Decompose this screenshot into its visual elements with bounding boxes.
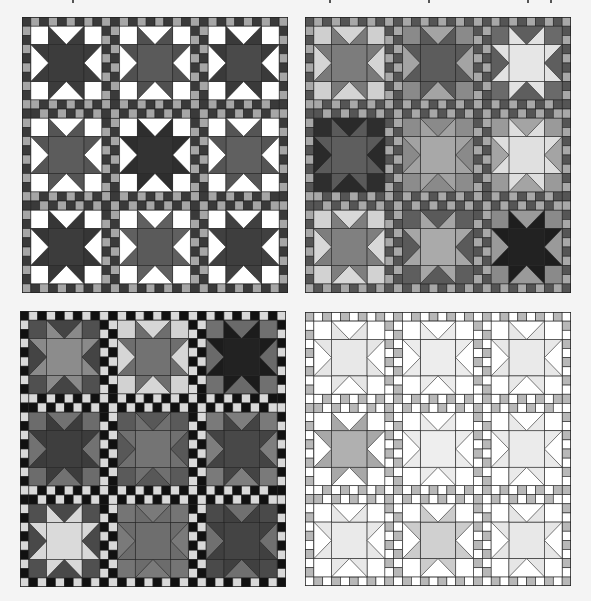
sashing-square [500,284,509,293]
sashing-square [562,91,571,100]
sashing-square [109,320,118,329]
sashing-square [217,100,226,109]
text-fragment [329,0,331,3]
sashing-square [55,394,64,403]
sashing-square [473,577,482,586]
sashing-square [190,173,199,182]
sashing-square [349,394,358,403]
block-corner [173,173,191,191]
sashing-square [197,477,206,486]
sashing-square [109,477,118,486]
sashing-square [49,201,58,210]
sashing-square [473,339,482,348]
sashing-square [456,284,465,293]
sashing-square [135,403,144,412]
block-corner [491,26,509,44]
sashing-square [73,394,82,403]
sashing-square [509,495,518,504]
sashing-square [473,458,482,467]
sashing-square [190,229,199,238]
sashing-square [120,192,129,201]
sashing-square [385,568,394,577]
sashing-square [376,284,385,293]
sashing-square [553,486,562,495]
sashing-square [22,238,31,247]
sashing-square [518,201,527,210]
sashing-square [536,312,545,321]
sashing-square [323,284,332,293]
sashing-square [199,229,208,238]
sashing-square [367,403,376,412]
sashing-square [100,329,109,338]
block-corner [120,118,138,136]
block-corner [208,81,226,99]
sashing-square [111,17,120,26]
sashing-square [323,394,332,403]
sashing-square [394,449,403,458]
sashing-square [279,201,288,210]
sashing-square [473,531,482,540]
sashing-square [305,367,314,376]
sashing-square [473,549,482,558]
sashing-square [323,100,332,109]
sashing-square [235,17,244,26]
sashing-square [199,210,208,219]
sashing-square [394,376,403,385]
sashing-square [491,284,500,293]
sashing-square [190,265,199,274]
sashing-square [93,201,102,210]
sashing-square [188,329,197,338]
block-corner [118,504,136,522]
sashing-square [305,265,314,274]
sashing-square [394,422,403,431]
sashing-square [562,81,571,90]
block-corner [84,173,102,191]
block-corner [31,118,49,136]
sashing-square [385,192,394,201]
sashing-square [518,192,527,201]
sashing-square [20,495,29,504]
sashing-square [188,412,197,421]
block-corner [120,265,138,283]
sashing-square [323,495,332,504]
block-corner [491,376,509,394]
sashing-square [482,440,491,449]
sashing-square [75,201,84,210]
sashing-square [562,339,571,348]
sashing-square [40,109,49,118]
sashing-square [482,358,491,367]
sashing-square [527,284,536,293]
sashing-square [146,100,155,109]
sashing-square [394,229,403,238]
sashing-square [394,54,403,63]
sashing-square [438,486,447,495]
sashing-square [102,155,111,164]
sashing-square [20,458,29,467]
block-corner [261,118,279,136]
sashing-square [197,394,206,403]
sashing-square [562,219,571,228]
sashing-square [403,100,412,109]
sashing-square [518,577,527,586]
sashing-square [473,275,482,284]
sashing-square [197,559,206,568]
block-corner [206,320,224,338]
sashing-square [305,339,314,348]
sashing-square [420,201,429,210]
sashing-square [164,100,173,109]
block-corner [491,412,509,430]
sashing-square [188,385,197,394]
sashing-square [473,210,482,219]
sashing-square [279,127,288,136]
sashing-square [367,495,376,504]
sashing-square [20,320,29,329]
sashing-square [482,522,491,531]
sashing-square [332,577,341,586]
sashing-square [102,63,111,72]
block-center [137,229,172,266]
sashing-square [199,100,208,109]
sashing-square [277,366,286,375]
sashing-square [226,192,235,201]
sashing-square [244,284,253,293]
sashing-square [305,412,314,421]
